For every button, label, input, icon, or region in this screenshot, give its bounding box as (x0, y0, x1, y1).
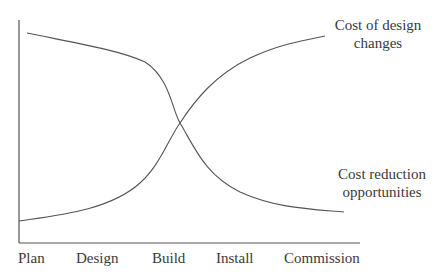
rising-curve (19, 36, 325, 221)
series-label-design-changes: Cost of design changes (330, 16, 426, 52)
x-tick-plan: Plan (18, 250, 45, 267)
series-label-line: opportunities (330, 183, 434, 201)
series-label-cost-reduction: Cost reduction opportunities (330, 165, 434, 201)
series-label-line: Cost reduction (330, 165, 434, 183)
series-label-line: changes (330, 34, 426, 52)
series-label-line: Cost of design (330, 16, 426, 34)
x-tick-commission: Commission (284, 250, 360, 267)
x-tick-install: Install (216, 250, 254, 267)
falling-curve (27, 33, 344, 212)
x-tick-build: Build (152, 250, 185, 267)
x-tick-design: Design (76, 250, 119, 267)
